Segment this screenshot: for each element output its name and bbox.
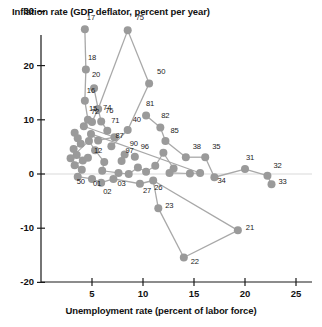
data-point-label: 34 — [217, 176, 225, 185]
data-point-label: 22 — [191, 257, 199, 266]
data-point — [142, 111, 150, 119]
data-point-label: 38 — [193, 142, 201, 151]
data-point — [82, 65, 90, 73]
data-point — [124, 26, 132, 34]
x-tick-label: 20 — [231, 288, 259, 299]
data-point — [107, 142, 115, 150]
data-point — [97, 117, 105, 125]
data-point-label: 03 — [117, 179, 125, 188]
data-point — [182, 153, 190, 161]
y-tick-label: 20 — [6, 60, 34, 71]
x-tick-label: 10 — [129, 288, 157, 299]
data-point-label: 20 — [92, 70, 100, 79]
data-point — [180, 253, 188, 261]
connector-line — [158, 208, 184, 257]
data-point — [100, 158, 108, 166]
data-point — [103, 127, 111, 135]
connector-line — [85, 69, 86, 100]
data-point-label: 23 — [165, 201, 173, 210]
data-point-label: 76 — [105, 106, 113, 115]
data-point — [196, 169, 204, 177]
data-point — [118, 157, 126, 165]
data-point — [166, 169, 174, 177]
data-points — [67, 25, 276, 261]
data-point-label: 72 — [91, 107, 99, 116]
data-point-label: 50 — [77, 177, 85, 186]
data-point — [87, 130, 95, 138]
data-point — [85, 137, 93, 145]
data-point-label: 85 — [170, 126, 178, 135]
data-point — [159, 149, 167, 157]
data-point-label: 81 — [146, 99, 154, 108]
data-point — [77, 140, 85, 148]
data-point-label: 35 — [212, 142, 220, 151]
y-tick-label: 0 — [6, 168, 34, 179]
data-point-label: 96 — [141, 142, 149, 151]
data-point-label: 12 — [94, 146, 102, 155]
data-point-label: 17 — [87, 13, 95, 22]
connector-line — [98, 30, 128, 109]
y-tick-label: -20 — [6, 276, 34, 287]
data-point — [88, 118, 96, 126]
data-point-label: 87 — [115, 131, 123, 140]
connector-line — [85, 29, 86, 69]
data-point — [263, 172, 271, 180]
data-point — [156, 123, 164, 131]
x-tick-label: 5 — [78, 288, 106, 299]
data-point — [151, 162, 159, 170]
connector-line — [184, 230, 238, 257]
data-point — [154, 204, 162, 212]
data-point — [145, 79, 153, 87]
data-point — [234, 226, 242, 234]
x-tick-label: 15 — [180, 288, 208, 299]
data-point-label: 33 — [279, 177, 287, 186]
phillips-curve-chart: Inflation rate (GDP deflator, percent pe… — [0, 0, 322, 327]
connector-line — [91, 134, 200, 173]
data-point-label: 01 — [93, 179, 101, 188]
data-point-label: 27 — [143, 186, 151, 195]
data-point-label: 82 — [161, 111, 169, 120]
data-point-label: 75 — [136, 13, 144, 22]
data-point — [94, 136, 102, 144]
data-point — [241, 165, 249, 173]
data-point-label: 97 — [126, 146, 134, 155]
data-point — [81, 97, 89, 105]
data-point-label: 26 — [154, 183, 162, 192]
data-point-label: 18 — [88, 53, 96, 62]
data-point-label: 21 — [246, 223, 254, 232]
y-tick-label: -10 — [6, 222, 34, 233]
data-point — [98, 167, 106, 175]
data-point — [124, 126, 132, 134]
y-tick-label: 10 — [6, 114, 34, 125]
data-point-label: 31 — [246, 153, 254, 162]
data-point — [142, 168, 150, 176]
data-point — [134, 163, 142, 171]
connector-line — [128, 30, 149, 83]
data-point — [81, 25, 89, 33]
data-point — [161, 137, 169, 145]
data-point — [201, 153, 209, 161]
data-point — [71, 161, 79, 169]
data-point-label: 71 — [111, 116, 119, 125]
data-point — [84, 154, 92, 162]
data-point-label: 40 — [133, 115, 141, 124]
data-point — [78, 166, 86, 174]
data-point-label: 50 — [157, 67, 165, 76]
data-point — [67, 154, 75, 162]
y-tick-label: 30 — [6, 5, 34, 16]
data-point-label: 32 — [273, 161, 281, 170]
data-point — [125, 170, 133, 178]
x-tick-label: 25 — [282, 288, 310, 299]
x-axis-label: Unemployment rate (percent of labor forc… — [0, 305, 322, 316]
data-point — [186, 169, 194, 177]
data-point — [268, 180, 276, 188]
data-point — [109, 175, 117, 183]
data-point-label: 16 — [87, 86, 95, 95]
data-point-label: 02 — [103, 187, 111, 196]
